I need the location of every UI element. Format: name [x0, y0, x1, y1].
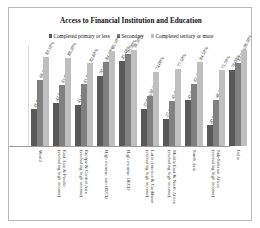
- bar-wrapper: 96.30%: [241, 46, 246, 146]
- bar-group: 70.10%84.40%95.10%: [95, 46, 117, 146]
- bar[interactable]: [241, 50, 246, 146]
- bar[interactable]: [103, 62, 108, 146]
- bar-wrapper: 89.10%: [43, 46, 48, 146]
- x-axis-line: [9, 146, 230, 147]
- bar-group: 41.40%61.80%82.60%: [73, 46, 95, 146]
- bar-wrapper: 27.10%: [163, 46, 168, 146]
- legend-item-tertiary[interactable]: Completed tertiary or more: [151, 33, 214, 39]
- bar-wrapper: 77.50%: [175, 46, 180, 146]
- bar[interactable]: [197, 62, 202, 147]
- x-axis-label[interactable]: World: [37, 150, 42, 162]
- bar[interactable]: [219, 70, 224, 146]
- x-axis-label-cell: Sub-Saharan Africa(excluding high income…: [205, 149, 227, 221]
- legend-label-primary: Completed primary or less: [53, 33, 109, 39]
- bar-wrapper: 45.00%: [169, 46, 174, 146]
- x-axis-label[interactable]: Europe & Central Asia(excluding high inc…: [79, 150, 90, 197]
- bar-wrapper: 84.40%: [103, 46, 108, 146]
- x-axis-label-cell: East Asia & Pacific(excluding high incom…: [51, 149, 73, 221]
- bar-wrapper: 43.50%: [53, 46, 58, 146]
- bar-group: 43.50%61.00%88.20%: [51, 46, 73, 146]
- bar[interactable]: [109, 51, 114, 146]
- bar-wrapper: 36.80%: [31, 46, 36, 146]
- bar[interactable]: [37, 80, 42, 147]
- bar[interactable]: [185, 100, 190, 146]
- bar-group: 27.10%45.00%77.50%: [161, 46, 183, 146]
- x-axis-label[interactable]: Middle East & North Africa(excluding hig…: [167, 150, 178, 204]
- bar[interactable]: [43, 57, 48, 146]
- bar-wrapper: 41.40%: [75, 46, 80, 146]
- bar[interactable]: [141, 109, 146, 146]
- x-axis-label-cell: High income: OECD: [117, 149, 139, 221]
- bar[interactable]: [235, 63, 240, 147]
- bar[interactable]: [207, 125, 212, 146]
- bar[interactable]: [97, 76, 102, 146]
- x-axis-label-cell: South Asia: [183, 149, 205, 221]
- bar[interactable]: [229, 70, 234, 146]
- bar-wrapper: 75.70%: [219, 46, 224, 146]
- bar[interactable]: [169, 101, 174, 146]
- legend-label-tertiary: Completed tertiary or more: [155, 33, 213, 39]
- chart-title: Access to Financial Institution and Educ…: [9, 17, 252, 25]
- x-axis-label[interactable]: India: [235, 150, 240, 160]
- bar-wrapper: 37.00%: [141, 46, 146, 146]
- bar[interactable]: [81, 84, 86, 146]
- x-axis-label[interactable]: Latin America & Caribbean(excluding high…: [145, 150, 156, 203]
- plot-area: 36.80%66.50%89.10%43.50%61.00%88.20%41.4…: [29, 46, 249, 146]
- bar-wrapper: 85.40%: [119, 46, 124, 146]
- bar[interactable]: [125, 54, 130, 146]
- bar-wrapper: 82.60%: [87, 46, 92, 146]
- bar-group: 37.00%50.20%74.00%: [139, 46, 161, 146]
- bar[interactable]: [75, 105, 80, 146]
- bar-group: 36.80%66.50%89.10%: [29, 46, 51, 146]
- x-axis-label[interactable]: South Asia: [191, 150, 196, 171]
- bar[interactable]: [147, 96, 152, 146]
- bar[interactable]: [87, 63, 92, 146]
- bar[interactable]: [191, 84, 196, 146]
- bar-wrapper: 66.50%: [37, 46, 42, 146]
- legend-swatch-primary: [49, 34, 52, 37]
- bar[interactable]: [53, 103, 58, 147]
- bar-wrapper: 95.10%: [109, 46, 114, 146]
- x-axis-label[interactable]: Sub-Saharan Africa(excluding high income…: [211, 150, 222, 197]
- bar[interactable]: [213, 100, 218, 146]
- bar-wrapper: 76.00%: [229, 46, 234, 146]
- legend-item-primary[interactable]: Completed primary or less: [49, 33, 110, 39]
- bar-wrapper: 61.80%: [81, 46, 86, 146]
- bar[interactable]: [119, 61, 124, 146]
- bar-wrapper: 62.40%: [191, 46, 196, 146]
- bar-wrapper: 50.20%: [147, 46, 152, 146]
- x-axis-label-cell: High income: non OECD: [95, 149, 117, 221]
- chart-frame: Access to Financial Institution and Educ…: [8, 7, 252, 221]
- x-axis-label-cell: Latin America & Caribbean(excluding high…: [139, 149, 161, 221]
- x-axis-label-cell: India: [227, 149, 249, 221]
- bar[interactable]: [175, 69, 180, 147]
- bar-wrapper: 91.90%: [125, 46, 130, 146]
- bar-wrapper: 61.00%: [59, 46, 64, 146]
- bar-wrapper: 20.70%: [207, 46, 212, 146]
- bar[interactable]: [59, 85, 64, 146]
- x-axis-label[interactable]: High income: non OECD: [103, 150, 108, 199]
- bar-groups: 36.80%66.50%89.10%43.50%61.00%88.20%41.4…: [29, 46, 249, 146]
- bar[interactable]: [153, 72, 158, 146]
- bar-wrapper: 96.30%: [131, 46, 136, 146]
- bar-wrapper: 83.50%: [235, 46, 240, 146]
- bar[interactable]: [131, 50, 136, 146]
- bar-group: 76.00%83.50%96.30%: [227, 46, 249, 146]
- bar-wrapper: 46.20%: [213, 46, 218, 146]
- chart-legend: Completed primary or less Secondary Comp…: [9, 33, 252, 39]
- bar-wrapper: 45.90%: [185, 46, 190, 146]
- legend-swatch-tertiary: [151, 34, 154, 37]
- bar-wrapper: 88.20%: [65, 46, 70, 146]
- bar-group: 85.40%91.90%96.30%: [117, 46, 139, 146]
- bar-group: 45.90%62.40%84.50%: [183, 46, 205, 146]
- x-axis-label[interactable]: East Asia & Pacific(excluding high incom…: [57, 150, 68, 197]
- x-axis-labels: WorldEast Asia & Pacific(excluding high …: [29, 149, 249, 221]
- bar-wrapper: 74.00%: [153, 46, 158, 146]
- bar-group: 20.70%46.20%75.70%: [205, 46, 227, 146]
- bar[interactable]: [163, 119, 168, 146]
- bar[interactable]: [31, 109, 36, 146]
- x-axis-label[interactable]: High income: OECD: [125, 150, 130, 191]
- bar[interactable]: [65, 58, 70, 146]
- bar-wrapper: 70.10%: [97, 46, 102, 146]
- x-axis-label-cell: Middle East & North Africa(excluding hig…: [161, 149, 183, 221]
